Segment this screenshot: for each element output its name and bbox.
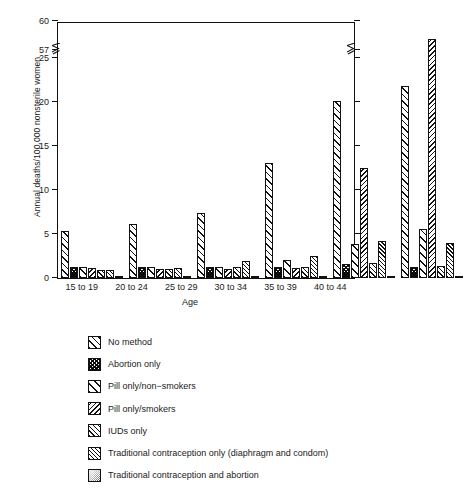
bar-group xyxy=(194,23,262,278)
y-tick xyxy=(52,189,58,190)
bar xyxy=(401,86,409,278)
y-tick-label: 57 xyxy=(39,46,49,55)
bar xyxy=(274,267,282,278)
legend-item: Pill only/non−smokers xyxy=(88,375,380,397)
bar xyxy=(147,267,155,278)
bar xyxy=(106,270,114,278)
bar xyxy=(88,268,96,278)
legend-label: Pill only/non−smokers xyxy=(108,381,196,391)
bar-group xyxy=(398,23,466,278)
bar xyxy=(61,231,69,278)
bar-group xyxy=(58,23,126,278)
bar xyxy=(351,244,359,278)
bar xyxy=(283,260,291,278)
y-tick-label: 0 xyxy=(44,274,49,283)
legend-swatch xyxy=(88,424,101,437)
legend-label: Traditional contraception and abortion xyxy=(108,470,259,480)
bar xyxy=(419,229,427,278)
bar xyxy=(342,264,350,278)
legend-item: IUDs only xyxy=(88,420,380,442)
bar xyxy=(233,267,241,278)
bar xyxy=(428,39,436,278)
legend-swatch xyxy=(88,402,101,415)
bar xyxy=(387,276,395,278)
y-tick xyxy=(52,57,58,58)
legend-label: IUDs only xyxy=(108,426,147,436)
bar xyxy=(165,269,173,278)
legend-label: Abortion only xyxy=(108,359,161,369)
bar xyxy=(378,241,386,278)
y-tick-right xyxy=(354,277,360,278)
legend-swatch xyxy=(88,447,101,460)
legend-swatch xyxy=(88,358,101,371)
legend-swatch xyxy=(88,380,101,393)
bar xyxy=(206,267,214,278)
y-tick-label: 15 xyxy=(39,142,49,151)
bar xyxy=(446,243,454,278)
legend-item: Traditional contraception only (diaphrag… xyxy=(88,442,380,464)
bar xyxy=(251,276,259,278)
bar xyxy=(369,263,377,278)
y-tick xyxy=(52,20,58,21)
y-tick-right xyxy=(354,101,360,102)
legend-swatch xyxy=(88,336,101,349)
bar xyxy=(79,267,87,278)
y-tick-right xyxy=(354,233,360,234)
y-tick-label: 25 xyxy=(39,54,49,63)
y-tick-right xyxy=(354,57,360,58)
legend-item: Pill only/smokers xyxy=(88,398,380,420)
legend: No methodAbortion onlyPill only/non−smok… xyxy=(88,331,380,486)
y-tick xyxy=(52,233,58,234)
bar-group xyxy=(330,23,398,278)
y-tick-label: 20 xyxy=(39,98,49,107)
bar xyxy=(97,270,105,278)
x-tick-label: 35 to 39 xyxy=(256,282,306,292)
x-tick-label: 15 to 19 xyxy=(57,282,107,292)
bar xyxy=(333,101,341,278)
legend-label: Traditional contraception only (diaphrag… xyxy=(108,448,328,458)
bar xyxy=(301,267,309,278)
legend-item: Abortion only xyxy=(88,353,380,375)
axis-break-marker xyxy=(52,43,65,56)
bar-group xyxy=(262,23,330,278)
bar-groups xyxy=(58,23,354,278)
y-tick xyxy=(52,277,58,278)
bar xyxy=(242,261,250,278)
chart-area: Annual deaths/100,000 nonsterile women 0… xyxy=(0,0,380,300)
legend-label: No method xyxy=(108,337,152,347)
legend-item: No method xyxy=(88,331,380,353)
x-axis-tick-labels: 15 to 1920 to 2425 to 2930 to 3435 to 39… xyxy=(57,282,355,292)
x-tick-label: 30 to 34 xyxy=(206,282,256,292)
legend-label: Pill only/smokers xyxy=(108,404,176,414)
bar xyxy=(360,168,368,278)
x-axis-title: Age xyxy=(0,297,380,307)
plot-frame: 05101520255760 xyxy=(57,22,355,279)
bar-group xyxy=(126,23,194,278)
bar xyxy=(410,267,418,278)
bar xyxy=(215,267,223,278)
bar xyxy=(437,266,445,278)
x-tick-label: 25 to 29 xyxy=(156,282,206,292)
axis-break-marker xyxy=(347,43,360,56)
y-tick xyxy=(52,101,58,102)
bar xyxy=(224,269,232,278)
bar xyxy=(455,276,463,278)
bar xyxy=(319,276,327,278)
y-tick-label: 60 xyxy=(39,17,49,26)
y-tick-right xyxy=(354,20,360,21)
bar xyxy=(292,268,300,278)
y-tick-label: 5 xyxy=(44,230,49,239)
x-tick-label: 20 to 24 xyxy=(107,282,157,292)
y-tick-right xyxy=(354,145,360,146)
bar xyxy=(138,267,146,278)
bar xyxy=(129,224,137,278)
bar xyxy=(265,163,273,278)
bar xyxy=(197,213,205,278)
y-tick xyxy=(52,145,58,146)
bar xyxy=(310,256,318,278)
bar xyxy=(174,268,182,278)
legend-item: Traditional contraception and abortion xyxy=(88,464,380,486)
legend-swatch xyxy=(88,469,101,482)
bar xyxy=(70,267,78,278)
